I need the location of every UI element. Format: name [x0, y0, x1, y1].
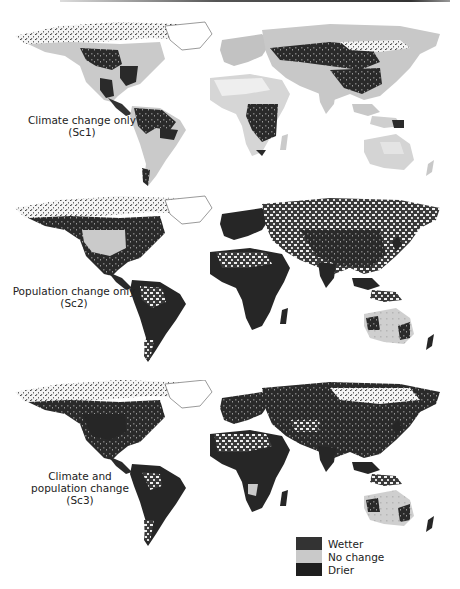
legend-label: Wetter: [328, 538, 363, 550]
legend-item-drier: Drier: [296, 563, 384, 576]
map-panel-sc1: Climate change only (Sc1): [0, 4, 460, 190]
legend-swatch-drier: [296, 563, 322, 576]
panel-label-sc1: Climate change only (Sc1): [22, 114, 142, 138]
legend-label: No change: [328, 551, 384, 563]
panel-scenario-code: (Sc3): [20, 494, 140, 506]
legend-label: Drier: [328, 564, 354, 576]
panel-title: Climate and: [20, 470, 140, 482]
panel-scenario-code: (Sc2): [8, 297, 140, 309]
panel-title: Climate change only: [22, 114, 142, 126]
panel-scenario-code: (Sc1): [22, 126, 142, 138]
legend-item-wetter: Wetter: [296, 537, 384, 550]
map-panel-sc3: Climate and population change (Sc3): [0, 380, 460, 560]
legend-swatch-no-change: [296, 550, 322, 563]
legend: Wetter No change Drier: [296, 537, 384, 576]
top-border-line: [60, 0, 450, 2]
panel-title: Population change only: [8, 285, 140, 297]
panel-title-line2: population change: [20, 482, 140, 494]
legend-swatch-wetter: [296, 537, 322, 550]
panel-label-sc3: Climate and population change (Sc3): [20, 470, 140, 506]
panel-label-sc2: Population change only (Sc2): [8, 285, 140, 309]
world-map-sc1: [0, 4, 460, 190]
map-panel-sc2: Population change only (Sc2): [0, 190, 460, 380]
legend-item-no-change: No change: [296, 550, 384, 563]
